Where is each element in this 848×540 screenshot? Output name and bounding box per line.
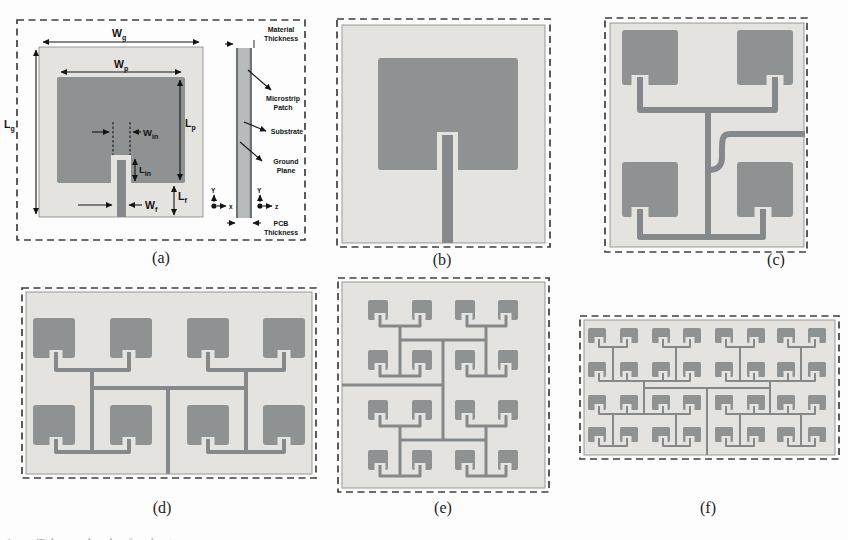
substrate-layer-strip bbox=[239, 48, 250, 218]
figure-page: Wg Wp Lg Lp Win Lin Wf Lf Material Thick… bbox=[0, 0, 848, 540]
material-thickness-label: Material bbox=[268, 26, 295, 33]
wg-label: Wg bbox=[112, 27, 126, 42]
microstrip-patch-label: Microstrip bbox=[266, 95, 300, 103]
svg-text:z: z bbox=[275, 203, 279, 210]
caption-d: (d) bbox=[153, 499, 172, 517]
feed-line bbox=[442, 135, 453, 243]
caption-f: (f) bbox=[700, 499, 716, 517]
pcb-thickness-label: PCB bbox=[274, 220, 289, 227]
svg-text:x: x bbox=[229, 203, 233, 210]
panel-a-diagram: Wg Wp Lg Lp Win Lin Wf Lf Material Thick… bbox=[4, 20, 305, 240]
caption-a: (a) bbox=[152, 249, 170, 267]
panel-f-diagram bbox=[580, 316, 839, 459]
panel-d-diagram bbox=[22, 288, 316, 478]
svg-text:Thickness: Thickness bbox=[264, 229, 298, 236]
caption-b: (b) bbox=[433, 251, 452, 269]
ground-plane-label: Ground bbox=[273, 158, 298, 165]
svg-text:Y: Y bbox=[257, 187, 262, 194]
caption-c: (c) bbox=[767, 251, 785, 269]
panel-b-diagram bbox=[337, 19, 550, 247]
xy-axes-icon: Y x bbox=[211, 187, 233, 210]
svg-text:Patch: Patch bbox=[273, 104, 292, 111]
svg-text:Plane: Plane bbox=[277, 167, 296, 174]
panel-a-layer-stack: Material Thickness Microstrip Patch Subs… bbox=[225, 26, 303, 236]
caption-fragment: 1. The d d f d t bbox=[6, 529, 848, 540]
substrate-label: Substrate bbox=[271, 128, 303, 135]
patch-layer-strip bbox=[236, 48, 239, 218]
yz-axes-icon: Y z bbox=[257, 187, 279, 210]
figure-canvas: Wg Wp Lg Lp Win Lin Wf Lf Material Thick… bbox=[0, 0, 848, 540]
patch bbox=[622, 30, 678, 85]
patch bbox=[622, 162, 678, 217]
svg-text:Thickness: Thickness bbox=[264, 35, 298, 42]
svg-text:Y: Y bbox=[211, 187, 216, 194]
panel-c-diagram bbox=[605, 18, 807, 252]
caption-e: (e) bbox=[434, 499, 452, 517]
panel-e-diagram bbox=[338, 278, 549, 492]
patch bbox=[737, 30, 793, 85]
lg-label: Lg bbox=[4, 118, 15, 133]
panel-a-feed-line bbox=[117, 160, 126, 217]
